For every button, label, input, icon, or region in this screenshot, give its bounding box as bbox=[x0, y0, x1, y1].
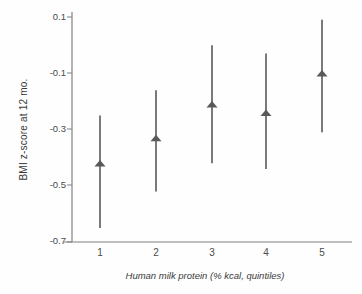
x-tick-label: 5 bbox=[307, 247, 337, 258]
x-tick-label: 4 bbox=[251, 247, 281, 258]
data-point-marker bbox=[207, 101, 218, 108]
data-points-layer bbox=[95, 20, 328, 228]
x-tick-label: 1 bbox=[85, 247, 115, 258]
data-point-marker bbox=[261, 109, 272, 116]
axes bbox=[64, 12, 352, 242]
x-tick-label: 2 bbox=[141, 247, 171, 258]
data-point-marker bbox=[95, 160, 106, 167]
data-point-marker bbox=[317, 70, 328, 77]
x-axis-title: Human milk protein (% kcal, quintiles) bbox=[60, 270, 350, 281]
data-point-marker bbox=[151, 135, 162, 142]
x-tick-label: 3 bbox=[197, 247, 227, 258]
chart-container: BMI z-score at 12 mo. 0.1 -0.1 -0.3 -0.5… bbox=[0, 0, 362, 294]
